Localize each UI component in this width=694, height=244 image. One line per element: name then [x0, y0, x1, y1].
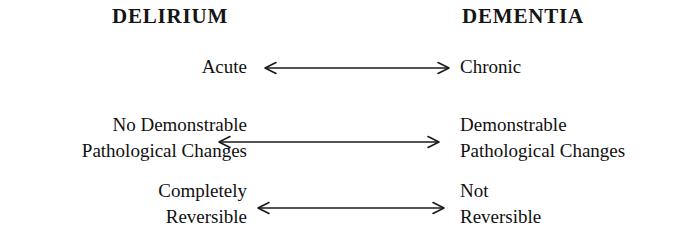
row-reversibility-left-line-2: Reversible — [158, 204, 247, 230]
row-reversibility-right-line-2: Reversible — [460, 204, 541, 230]
row-onset-left-label: Acute — [202, 54, 247, 80]
comparison-row-pathology: No Demonstrable Pathological Changes Dem… — [0, 112, 694, 168]
row-reversibility-left-label: Completely Reversible — [158, 178, 247, 230]
row-pathology-right-line-1: Demonstrable — [460, 112, 625, 138]
row-pathology-right-line-2: Pathological Changes — [460, 138, 625, 164]
double-arrow-icon-reversibility — [253, 200, 449, 216]
row-pathology-left-label: No Demonstrable Pathological Changes — [82, 112, 247, 164]
comparison-diagram: DELIRIUM DEMENTIA Acute Chronic No Demon… — [0, 0, 694, 244]
row-pathology-right-label: Demonstrable Pathological Changes — [460, 112, 625, 164]
row-pathology-left-line-1: No Demonstrable — [82, 112, 247, 138]
row-reversibility-left-line-1: Completely — [158, 178, 247, 204]
comparison-row-reversibility: Completely Reversible Not Reversible — [0, 178, 694, 234]
double-arrow-icon-onset — [260, 60, 454, 76]
column-header-delirium: DELIRIUM — [112, 4, 228, 28]
row-reversibility-right-line-1: Not — [460, 178, 541, 204]
row-onset-right-label: Chronic — [460, 54, 521, 80]
column-header-dementia: DEMENTIA — [462, 4, 584, 28]
row-pathology-left-line-2: Pathological Changes — [82, 138, 247, 164]
column-headers: DELIRIUM DEMENTIA — [0, 4, 694, 34]
double-arrow-icon-pathology — [214, 134, 444, 150]
row-onset-right-line-1: Chronic — [460, 54, 521, 80]
comparison-row-onset: Acute Chronic — [0, 52, 694, 90]
row-reversibility-right-label: Not Reversible — [460, 178, 541, 230]
row-onset-left-line-1: Acute — [202, 54, 247, 80]
